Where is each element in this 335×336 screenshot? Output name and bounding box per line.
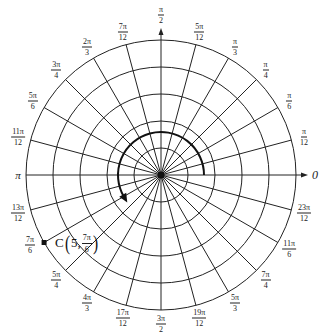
point-theta: 7π 6 — [82, 233, 92, 254]
ray — [31, 140, 161, 175]
angle-label-pi-2: π2 — [158, 6, 164, 25]
angle-label-text: π — [15, 169, 21, 181]
point-c-marker — [42, 240, 47, 245]
ray — [161, 80, 256, 175]
angle-denominator: 12 — [195, 33, 203, 42]
angle-label-pi-3: π3 — [232, 37, 238, 56]
angle-numerator: 2π — [82, 37, 92, 47]
angle-numerator: 5π — [28, 92, 38, 102]
angle-label-2pi-3: 2π3 — [82, 37, 92, 56]
angle-denominator: 12 — [300, 137, 308, 146]
angle-denominator: 12 — [14, 137, 22, 146]
angle-denominator: 3 — [85, 304, 89, 313]
ray — [161, 140, 291, 175]
angle-numerator: 7π — [118, 23, 128, 33]
ray — [44, 108, 161, 176]
angle-fraction: 5π6 — [28, 92, 38, 111]
angle-fraction: 11π12 — [11, 127, 25, 146]
angle-label-13pi-12: 13π12 — [11, 204, 25, 223]
angle-fraction: 7π12 — [118, 23, 128, 42]
ray — [126, 175, 161, 305]
angle-fraction: 23π12 — [297, 204, 311, 223]
angle-numerator: 23π — [297, 204, 311, 214]
angle-numerator: 5π — [51, 270, 61, 280]
open-paren: ( — [65, 232, 70, 254]
angle-numerator: 11π — [282, 240, 296, 250]
angle-denominator: 2 — [159, 16, 163, 25]
angle-numerator: 3π — [51, 61, 61, 71]
angle-denominator: 12 — [300, 214, 308, 223]
angle-denominator: 12 — [119, 318, 127, 327]
angle-fraction: π12 — [300, 127, 308, 146]
point-c-dot — [42, 240, 47, 245]
ray — [161, 175, 229, 292]
angle-numerator: 7π — [25, 235, 35, 245]
angle-label-5pi-12: 5π12 — [194, 23, 204, 42]
angle-denominator: 6 — [287, 250, 291, 259]
angle-numerator: π — [263, 61, 269, 71]
angle-denominator: 2 — [159, 325, 163, 334]
angle-label-3pi-2: 3π2 — [156, 315, 166, 334]
angle-denominator: 4 — [54, 71, 58, 80]
angle-label-4pi-3: 4π3 — [82, 294, 92, 313]
polar-grid — [0, 0, 335, 336]
angle-numerator: π — [286, 92, 292, 102]
angle-denominator: 6 — [31, 102, 35, 111]
angle-numerator: 19π — [192, 308, 206, 318]
angle-fraction: 13π12 — [11, 204, 25, 223]
ray — [161, 58, 229, 175]
angle-fraction: π6 — [286, 92, 292, 111]
angle-label-pi-4: π4 — [263, 61, 269, 80]
angle-numerator: 13π — [11, 204, 25, 214]
angle-label-7pi-4: 7π4 — [261, 270, 271, 289]
point-c-label: C ( 5 , 7π 6 ) — [55, 232, 99, 254]
ray — [31, 175, 161, 210]
point-name: C — [55, 235, 64, 251]
angle-fraction: 4π3 — [82, 294, 92, 313]
theta-denominator: 6 — [85, 244, 89, 254]
angle-label-text: 0 — [312, 168, 318, 182]
angle-label-pi-12: π12 — [300, 127, 308, 146]
angle-label-7pi-12: 7π12 — [118, 23, 128, 42]
angle-numerator: 5π — [230, 294, 240, 304]
angle-fraction: π3 — [232, 37, 238, 56]
angle-denominator: 3 — [233, 47, 237, 56]
comma: , — [78, 235, 81, 251]
angle-numerator: 5π — [194, 23, 204, 33]
angle-denominator: 6 — [287, 102, 291, 111]
angle-fraction: 7π4 — [261, 270, 271, 289]
angle-fraction: 5π12 — [194, 23, 204, 42]
ray — [161, 108, 278, 176]
angle-denominator: 12 — [14, 214, 22, 223]
angle-label-5pi-6: 5π6 — [28, 92, 38, 111]
angle-denominator: 3 — [85, 47, 89, 56]
angle-denominator: 4 — [264, 71, 268, 80]
angle-fraction: 3π4 — [51, 61, 61, 80]
angle-numerator: 17π — [116, 308, 130, 318]
ray — [161, 175, 291, 210]
angle-numerator: π — [232, 37, 238, 47]
angle-numerator: 3π — [156, 315, 166, 325]
angle-fraction: π2 — [158, 6, 164, 25]
angle-denominator: 4 — [264, 280, 268, 289]
angle-numerator: π — [158, 6, 164, 16]
angle-numerator: 7π — [261, 270, 271, 280]
angle-label-17pi-12: 17π12 — [116, 308, 130, 327]
angle-fraction: 5π4 — [51, 270, 61, 289]
angle-label-pi-6: π6 — [286, 92, 292, 111]
angle-denominator: 6 — [28, 245, 32, 254]
theta-numerator: 7π — [82, 233, 92, 244]
angle-label-11pi-12: 11π12 — [11, 127, 25, 146]
angle-fraction: 19π12 — [192, 308, 206, 327]
angle-numerator: 4π — [82, 294, 92, 304]
angle-label-19pi-12: 19π12 — [192, 308, 206, 327]
angle-denominator: 12 — [119, 33, 127, 42]
ray — [126, 45, 161, 175]
ray — [161, 45, 196, 175]
angle-fraction: 7π6 — [25, 235, 35, 254]
angle-label-3pi-4: 3π4 — [51, 61, 61, 80]
angle-fraction: 2π3 — [82, 37, 92, 56]
ray — [94, 175, 162, 292]
angle-fraction: 5π3 — [230, 294, 240, 313]
ray — [161, 175, 278, 243]
